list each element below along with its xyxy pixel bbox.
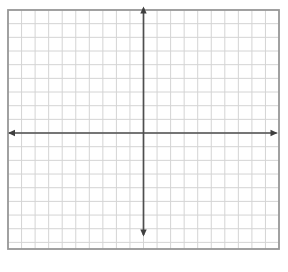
x-axis-left-arrow-icon xyxy=(8,130,15,136)
x-axis-right-arrow-icon xyxy=(271,130,278,136)
y-axis-down-arrow-icon xyxy=(140,230,146,237)
coordinate-plane xyxy=(0,0,288,272)
graph-paper xyxy=(0,0,288,272)
